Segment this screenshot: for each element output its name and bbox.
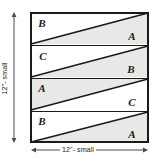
- band-2-lower-right-label: B: [126, 63, 134, 75]
- height-dimension-line: [12, 12, 17, 143]
- height-dimension-label: 12"- small: [1, 61, 8, 97]
- band-4-upper-left-label: B: [37, 115, 45, 127]
- cutting-diagram: B A C B A C B A 12"- small 12"- small: [0, 0, 158, 163]
- band-2-upper-left-label: C: [39, 50, 47, 62]
- band-3-upper-left-label: A: [37, 82, 45, 94]
- band-4-lower-right-label: A: [127, 128, 135, 140]
- band-1-upper-left-label: B: [37, 17, 45, 29]
- diagram-svg: B A C B A C B A: [0, 0, 158, 163]
- width-dimension-label: 12"- small: [60, 146, 96, 153]
- band-3-lower-right-label: C: [128, 96, 136, 108]
- band-1-lower-right-label: A: [127, 30, 135, 42]
